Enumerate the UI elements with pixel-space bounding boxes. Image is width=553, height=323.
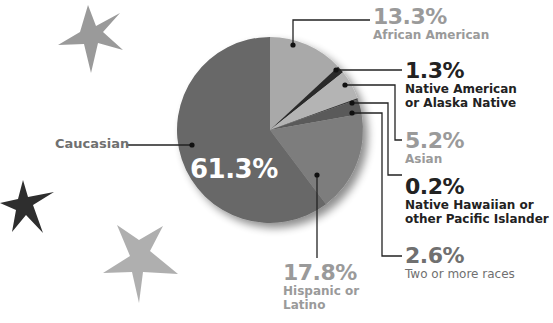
label-name: African American bbox=[373, 28, 489, 42]
label-hispanic: 17.8% Hispanic or Latino bbox=[283, 262, 359, 312]
label-name: Caucasian bbox=[55, 137, 129, 151]
label-pct: 0.2% bbox=[405, 176, 549, 198]
star-icon bbox=[0, 180, 54, 233]
label-pct: 1.3% bbox=[405, 60, 517, 82]
label-african-american: 13.3% African American bbox=[373, 6, 489, 42]
star-icon bbox=[58, 5, 123, 73]
label-caucasian: Caucasian bbox=[55, 137, 129, 151]
star-icon bbox=[103, 225, 178, 303]
label-name-line2: other Pacific Islander bbox=[405, 212, 549, 226]
label-asian: 5.2% Asian bbox=[405, 130, 464, 166]
label-two-or-more: 2.6% Two or more races bbox=[405, 245, 515, 281]
pie-slices bbox=[177, 37, 363, 223]
label-pct: 13.3% bbox=[373, 6, 489, 28]
label-native-hawaiian: 0.2% Native Hawaiian or other Pacific Is… bbox=[405, 176, 549, 226]
label-pct: 61.3% bbox=[190, 155, 278, 183]
label-native-american: 1.3% Native American or Alaska Native bbox=[405, 60, 517, 110]
label-name-line2: or Alaska Native bbox=[405, 96, 517, 110]
label-caucasian-pct: 61.3% bbox=[190, 155, 278, 183]
label-name-line1: Hispanic or bbox=[283, 284, 359, 298]
label-name: Two or more races bbox=[405, 267, 515, 281]
label-pct: 5.2% bbox=[405, 130, 464, 152]
label-name-line1: Native Hawaiian or bbox=[405, 198, 549, 212]
label-name-line2: Latino bbox=[283, 298, 359, 312]
label-name-line1: Native American bbox=[405, 82, 517, 96]
label-pct: 2.6% bbox=[405, 245, 515, 267]
label-pct: 17.8% bbox=[283, 262, 359, 284]
label-name: Asian bbox=[405, 152, 464, 166]
